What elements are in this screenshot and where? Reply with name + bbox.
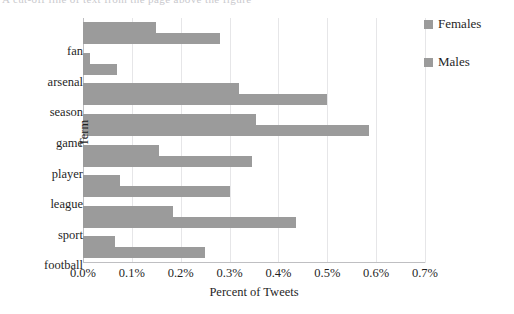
legend-item-males: Males <box>424 54 514 70</box>
x-axis-tick-labels: 0.0%0.1%0.2%0.3%0.4%0.5%0.6%0.7% <box>83 266 425 282</box>
bar-season-males <box>83 94 327 105</box>
legend-swatch-icon <box>424 20 433 29</box>
legend-label: Males <box>438 54 470 70</box>
bar-group <box>83 175 425 202</box>
bar-group <box>83 53 425 80</box>
bar-group <box>83 206 425 233</box>
bar-season-females <box>83 83 239 94</box>
y-tick-arsenal: arsenal <box>0 76 83 88</box>
bar-group <box>83 145 425 172</box>
bar-group <box>83 236 425 263</box>
legend-label: Females <box>438 16 481 32</box>
bar-sport-females <box>83 206 173 217</box>
legend-item-females: Females <box>424 16 514 32</box>
legend-swatch-icon <box>424 58 433 67</box>
bar-fan-males <box>83 33 220 44</box>
bar-group <box>83 83 425 110</box>
x-axis-line <box>83 262 425 263</box>
bar-arsenal-males <box>83 64 117 75</box>
bar-group <box>83 114 425 141</box>
y-tick-season: season <box>0 106 83 118</box>
bar-football-males <box>83 247 205 258</box>
cut-off-text-strip: A cut-off line of text from the page abo… <box>0 0 514 9</box>
bar-group <box>83 22 425 49</box>
y-tick-league: league <box>0 198 83 210</box>
y-tick-sport: sport <box>0 229 83 241</box>
bar-fan-females <box>83 22 156 33</box>
y-axis-tick-labels: fanarsenalseasongameplayerleaguesportfoo… <box>0 36 83 281</box>
bar-player-females <box>83 145 159 156</box>
x-axis-title: Percent of Tweets <box>83 285 425 300</box>
y-tick-player: player <box>0 168 83 180</box>
plot-area: fanarsenalseasongameplayerleaguesportfoo… <box>83 18 425 263</box>
y-tick-game: game <box>0 137 83 149</box>
x-tick-0.7%: 0.7% <box>395 266 455 281</box>
bar-league-males <box>83 186 230 197</box>
y-axis-title: Term <box>77 120 92 146</box>
bar-sport-males <box>83 217 296 228</box>
y-tick-fan: fan <box>0 45 83 57</box>
bar-arsenal-females <box>83 53 90 64</box>
bar-game-males <box>83 125 369 136</box>
chart-figure: A cut-off line of text from the page abo… <box>0 0 514 314</box>
cut-off-text: A cut-off line of text from the page abo… <box>0 0 514 4</box>
bar-league-females <box>83 175 120 186</box>
bar-game-females <box>83 114 256 125</box>
legend: FemalesMales <box>424 16 514 92</box>
bar-football-females <box>83 236 115 247</box>
bar-player-males <box>83 156 252 167</box>
